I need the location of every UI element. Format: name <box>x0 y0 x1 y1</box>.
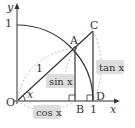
point-O-label: O <box>6 96 15 109</box>
unit-circle-diagram: sin x tan x cos x y 1 x 1 O A B C D 1 x <box>0 0 135 128</box>
right-angle-mark-B <box>69 95 75 101</box>
x-axis-label: x <box>110 103 117 116</box>
point-D-label: D <box>96 90 105 103</box>
y-axis-label: y <box>6 1 14 14</box>
radius-label: 1 <box>36 62 43 75</box>
right-angle-mark-D <box>87 95 93 101</box>
angle-label: x <box>27 88 34 101</box>
point-B-label: B <box>76 103 84 116</box>
sin-label: sin x <box>49 76 73 87</box>
x-tick-1: 1 <box>90 103 97 116</box>
y-axis-arrow-icon <box>15 3 20 9</box>
tan-label: tan x <box>99 62 125 73</box>
y-tick-1: 1 <box>5 17 12 30</box>
angle-arc <box>23 96 25 102</box>
point-C-label: C <box>90 19 98 32</box>
cos-label: cos x <box>36 107 62 118</box>
point-A-label: A <box>69 34 79 47</box>
